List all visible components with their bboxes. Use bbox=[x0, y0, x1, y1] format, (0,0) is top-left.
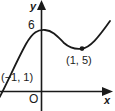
curve-path bbox=[0, 21, 110, 100]
y-axis-label: y bbox=[30, 1, 36, 12]
graph-figure: y x 6 O (1, 5) (−1, 1) bbox=[0, 0, 115, 111]
x-axis-label: x bbox=[104, 95, 110, 106]
y-axis-tick-label-6: 6 bbox=[28, 19, 35, 31]
origin-label: O bbox=[29, 93, 38, 105]
point-label-left: (−1, 1) bbox=[1, 72, 33, 83]
point-label-local-minimum: (1, 5) bbox=[66, 55, 92, 66]
y-axis-arrow-icon bbox=[37, 0, 46, 10]
graph-canvas bbox=[0, 0, 115, 111]
point-marker-local-minimum bbox=[80, 46, 85, 51]
